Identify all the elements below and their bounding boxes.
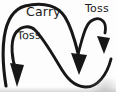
- toss-left-label: Toss: [17, 30, 41, 42]
- scan-shadow-blob: [88, 76, 116, 92]
- toss-right-arrowhead-icon: [97, 36, 110, 54]
- toss-right-label: Toss: [85, 3, 109, 14]
- diagram-canvas: Carry Toss Toss: [0, 0, 116, 92]
- carry-label: Carry: [26, 6, 61, 19]
- carry-arrowhead-icon: [71, 53, 87, 75]
- toss-left-arrowhead-icon: [10, 63, 24, 87]
